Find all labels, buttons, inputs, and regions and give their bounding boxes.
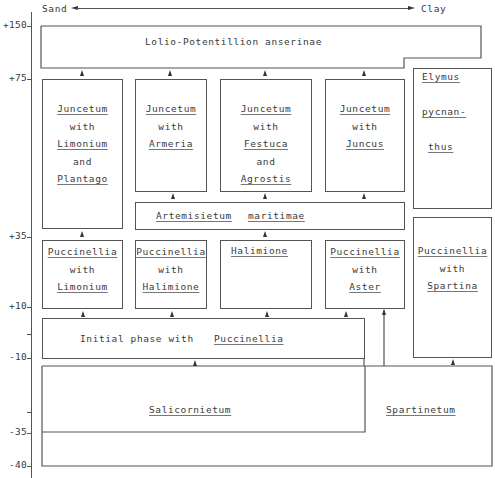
artemisietum-word2: maritimae (248, 210, 305, 221)
arrow-up-icon (263, 231, 267, 237)
line: Halimione (143, 278, 200, 296)
line: and (257, 153, 276, 171)
line: pycnan- (422, 106, 466, 117)
line: with (70, 118, 95, 136)
line: Halimione (231, 245, 288, 256)
arrow-up-icon (344, 311, 348, 317)
artemisietum-box: Artemisietum maritimae (135, 202, 405, 230)
juncetum-limonium-box: Juncetum with Limonium and Plantago (42, 79, 123, 229)
line: Festuca (244, 135, 288, 153)
lolio-label: Lolio-Potentillion anserinae (145, 36, 322, 47)
puccinellia-halimione-box: Puccinellia with Halimione (135, 240, 207, 309)
arrow-up-icon (170, 311, 174, 317)
line: Puccinellia (330, 243, 400, 261)
puccinellia-aster-box: Puccinellia with Aster (325, 240, 405, 309)
arrow-up-icon (171, 193, 175, 199)
line: with (158, 118, 183, 136)
initial-phase-prefix: Initial phase with (80, 333, 194, 344)
line: Limonium (57, 135, 108, 153)
spartinetum-label: Spartinetum (386, 404, 456, 415)
elymus-box: Elymus pycnan- thus (413, 68, 492, 209)
arrow-up-icon (362, 70, 366, 76)
arrow-up-icon (80, 70, 84, 76)
arrow-up-icon (168, 70, 172, 76)
line: Puccinellia (418, 242, 488, 260)
line: Armeria (149, 135, 193, 153)
line: Juncetum (57, 100, 108, 118)
line: Aster (349, 278, 381, 296)
line: thus (428, 141, 453, 152)
line: Agrostis (241, 170, 292, 188)
salicornietum-label: Salicornietum (149, 404, 231, 415)
arrow-up-icon (263, 193, 267, 199)
arrow-up-icon (263, 70, 267, 76)
halimione-box: Halimione (220, 240, 312, 309)
initial-phase-species: Puccinellia (214, 333, 284, 344)
line: with (253, 118, 278, 136)
puccinellia-spartina-box: Puccinellia with Spartina (413, 217, 492, 358)
line: Puccinellia (136, 243, 206, 261)
line: with (352, 118, 377, 136)
line: with (70, 261, 95, 279)
line: Limonium (57, 278, 108, 296)
line: Juncetum (340, 100, 391, 118)
arrow-up-icon (81, 311, 85, 317)
line: Elymus (422, 71, 460, 82)
arrow-up-icon (362, 193, 366, 199)
line: Spartina (427, 277, 478, 295)
line: Plantago (57, 170, 108, 188)
initial-phase-box: Initial phase with Puccinellia (42, 318, 365, 359)
arrow-up-icon (451, 359, 455, 365)
line: with (158, 261, 183, 279)
line: and (73, 153, 92, 171)
line: with (440, 260, 465, 278)
juncetum-festuca-box: Juncetum with Festuca and Agrostis (220, 79, 312, 192)
line: with (352, 261, 377, 279)
line: Puccinellia (48, 243, 118, 261)
line: Juncetum (146, 100, 197, 118)
arrow-up-icon (265, 311, 269, 317)
juncetum-juncus-box: Juncetum with Juncus (325, 79, 405, 192)
line: Juncetum (241, 100, 292, 118)
puccinellia-limonium-box: Puccinellia with Limonium (42, 240, 123, 309)
artemisietum-word1: Artemisietum (156, 210, 232, 221)
arrow-up-icon (80, 231, 84, 237)
line: Juncus (346, 135, 384, 153)
juncetum-armeria-box: Juncetum with Armeria (135, 79, 207, 192)
arrow-up-icon (193, 360, 197, 366)
arrow-up-icon (382, 309, 386, 315)
